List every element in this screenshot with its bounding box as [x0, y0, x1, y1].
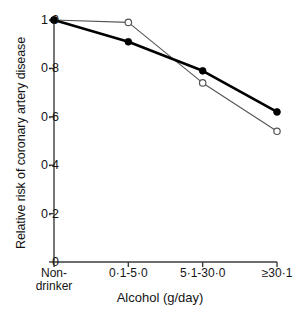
y-tick-label-2: 0·6	[0, 111, 59, 124]
x-tick-label-3-line1: ≥30·1	[262, 266, 293, 280]
x-axis-title-text: Alcohol (g/day)	[117, 290, 204, 305]
data-point-filled-3	[274, 109, 281, 116]
y-tick-label-4: 0·2	[0, 208, 59, 221]
series-line-open-circle-series	[54, 20, 277, 131]
x-axis-title: Alcohol (g/day)	[0, 290, 308, 305]
x-tick-label-1-line1: 0·1-5·0	[109, 266, 148, 280]
series-markers-group	[51, 17, 281, 135]
x-tick-label-0-line1: Non-	[41, 266, 67, 280]
series-line-filled-circle-series	[54, 20, 277, 112]
y-tick-label-3: 0·4	[0, 159, 59, 172]
series-lines-group	[54, 20, 277, 131]
y-axis-title: Relative risk of coronary artery disease	[14, 18, 28, 268]
data-point-open-3	[274, 128, 280, 134]
data-point-open-2	[199, 80, 205, 86]
x-tick-label-1: 0·1-5·0	[109, 267, 148, 280]
y-tick-label-1: 0·8	[0, 62, 59, 75]
data-point-open-1	[125, 19, 131, 25]
data-point-filled-1	[125, 38, 132, 45]
x-tick-label-2: 5·1-30·0	[180, 267, 225, 280]
coronary-risk-line-chart: Relative risk of coronary artery disease…	[0, 0, 308, 315]
data-point-filled-2	[199, 67, 206, 74]
x-tick-label-3: ≥30·1	[262, 267, 293, 280]
x-tick-label-2-line1: 5·1-30·0	[180, 266, 225, 280]
y-tick-label-0: 1·0	[0, 14, 59, 27]
